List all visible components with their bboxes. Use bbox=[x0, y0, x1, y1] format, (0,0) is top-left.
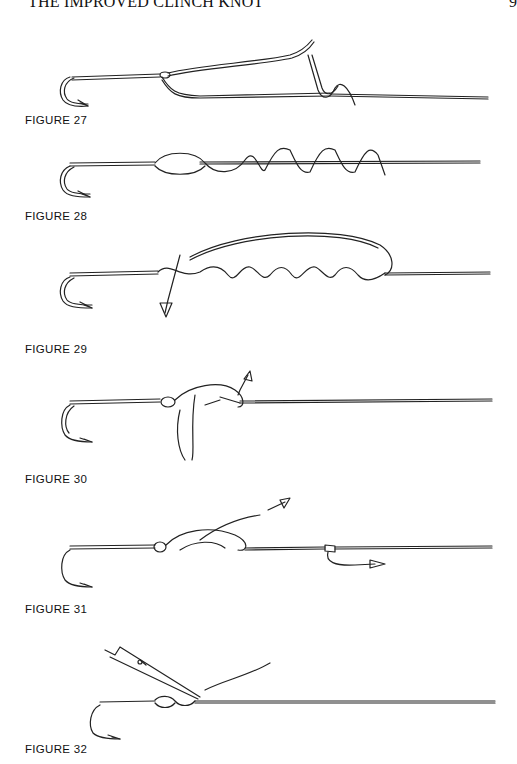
figure-32: FIGURE 32 bbox=[0, 625, 515, 764]
figure-caption-30: FIGURE 30 bbox=[25, 473, 87, 485]
figure-caption-32: FIGURE 32 bbox=[25, 743, 87, 755]
knot-diagram-28 bbox=[0, 130, 515, 210]
figure-30: FIGURE 30 bbox=[0, 355, 515, 495]
figure-caption-28: FIGURE 28 bbox=[25, 210, 87, 222]
knot-diagram-27 bbox=[0, 0, 515, 130]
figure-caption-31: FIGURE 31 bbox=[25, 603, 87, 615]
figure-caption-27: FIGURE 27 bbox=[25, 114, 87, 126]
figure-29: FIGURE 29 bbox=[0, 225, 515, 350]
figure-31: FIGURE 31 bbox=[0, 490, 515, 625]
figure-28: FIGURE 28 bbox=[0, 130, 515, 210]
figure-27: FIGURE 27 bbox=[0, 0, 515, 130]
knot-diagram-29 bbox=[0, 225, 515, 350]
figure-caption-29: FIGURE 29 bbox=[25, 343, 87, 355]
